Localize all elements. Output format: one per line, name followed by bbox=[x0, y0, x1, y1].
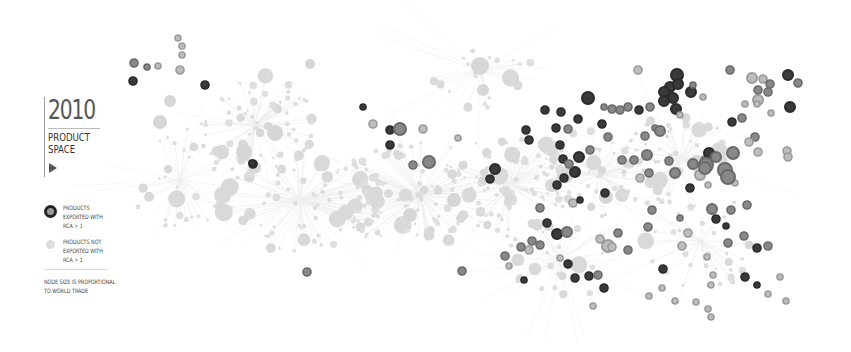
title-line-2: SPACE bbox=[48, 143, 75, 156]
legend-not-exported-label: PRODUCTS NOT EXPORTED WITH RCA > 1 bbox=[63, 237, 103, 264]
play-triangle-icon[interactable] bbox=[49, 163, 57, 173]
legend-item-not-exported: PRODUCTS NOT EXPORTED WITH RCA > 1 bbox=[44, 237, 113, 264]
exported-node-icon bbox=[44, 205, 57, 218]
nodes-not-exported bbox=[136, 49, 754, 299]
chart-title: PRODUCT SPACE bbox=[48, 132, 90, 156]
title-rule bbox=[48, 128, 100, 129]
not-exported-node-icon bbox=[46, 240, 55, 249]
node-size-note: NODE SIZE IS PROPORTIONAL TO WORLD TRADE bbox=[44, 277, 115, 295]
title-divider bbox=[44, 97, 45, 177]
legend-item-exported: PRODUCTS EXPORTED WITH RCA > 1 bbox=[44, 203, 113, 230]
year-label: 2010 bbox=[48, 95, 95, 125]
legend-exported-label: PRODUCTS EXPORTED WITH RCA > 1 bbox=[63, 203, 103, 230]
product-space-network bbox=[0, 0, 851, 352]
legend-divider bbox=[44, 269, 108, 270]
